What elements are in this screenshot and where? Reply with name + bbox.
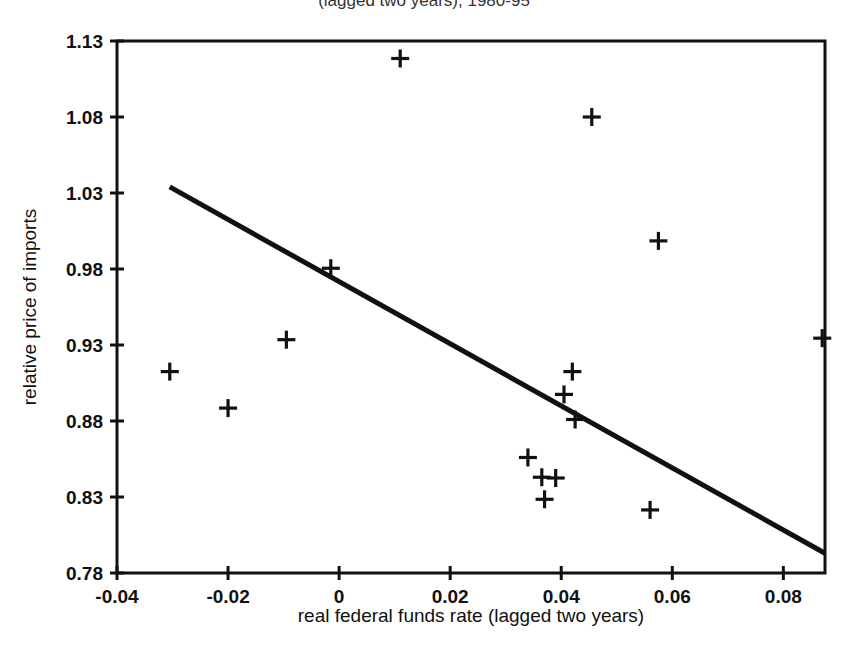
data-point-marker [161, 363, 179, 381]
x-tick-label: 0 [334, 586, 345, 607]
chart-canvas: 0.780.830.880.930.981.031.081.13 -0.04-0… [0, 0, 848, 658]
y-tick-label: 1.03 [66, 183, 103, 204]
data-point-marker [277, 331, 295, 349]
regression-fit-line [170, 187, 825, 553]
data-point-marker [536, 490, 554, 508]
data-point-marker [555, 385, 573, 403]
scatter-chart: (lagged two years), 1980-95 0.780.830.88… [0, 0, 848, 658]
y-tick-label: 1.08 [66, 107, 103, 128]
y-tick-label: 0.93 [66, 335, 103, 356]
y-tick-label: 0.83 [66, 487, 103, 508]
y-tick-label: 1.13 [66, 31, 103, 52]
x-tick-label: -0.04 [95, 586, 139, 607]
y-axis-tick-labels: 0.780.830.880.930.981.031.081.13 [66, 31, 103, 584]
data-point-marker [219, 399, 237, 417]
data-point-marker [641, 501, 659, 519]
data-point-marker [563, 363, 581, 381]
x-axis-tick-labels: -0.04-0.0200.020.040.060.08 [95, 586, 802, 607]
x-tick-label: -0.02 [206, 586, 249, 607]
data-point-marker [649, 232, 667, 250]
x-tick-label: 0.02 [432, 586, 469, 607]
data-point-markers [161, 49, 831, 518]
data-point-marker [547, 469, 565, 487]
x-tick-label: 0.08 [765, 586, 802, 607]
data-point-marker [519, 448, 537, 466]
x-tick-label: 0.06 [654, 586, 691, 607]
y-tick-label: 0.88 [66, 411, 103, 432]
y-tick-label: 0.78 [66, 563, 103, 584]
x-axis-title: real federal funds rate (lagged two year… [298, 605, 644, 626]
y-axis-title: relative price of imports [19, 209, 40, 405]
data-point-marker [391, 49, 409, 67]
fit-line-segment [170, 187, 825, 553]
x-tick-label: 0.04 [543, 586, 580, 607]
data-point-marker [566, 410, 584, 428]
data-point-marker [813, 329, 831, 347]
data-point-marker [583, 108, 601, 126]
y-tick-label: 0.98 [66, 259, 103, 280]
